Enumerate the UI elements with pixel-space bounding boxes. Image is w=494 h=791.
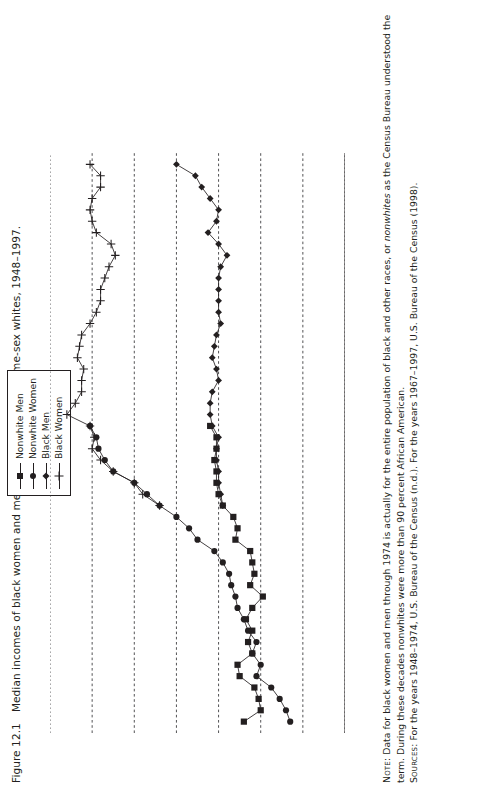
chart-data-point bbox=[251, 684, 257, 690]
chart-data-point bbox=[77, 331, 85, 339]
chart-data-point bbox=[237, 673, 243, 679]
chart-series-nonwhite-women bbox=[87, 423, 293, 725]
note-paragraph: Note: Data for black women and men throu… bbox=[380, 13, 407, 783]
chart-data-point bbox=[215, 309, 222, 316]
chart-data-point bbox=[96, 285, 104, 293]
chart-data-point bbox=[111, 251, 119, 259]
chart-data-point bbox=[253, 639, 259, 645]
chart-data-point bbox=[173, 161, 180, 168]
chart-data-point bbox=[249, 605, 255, 611]
note-text: Data for black women and men through 197… bbox=[381, 15, 406, 783]
chart-data-point bbox=[192, 172, 199, 179]
chart-data-point bbox=[80, 365, 88, 373]
chart-data-point bbox=[258, 707, 264, 713]
legend-label: Nonwhite Women bbox=[27, 378, 38, 459]
sources-label: Sources: bbox=[408, 743, 419, 783]
chart-series-nonwhite-men bbox=[207, 423, 266, 725]
chart-data-point bbox=[194, 537, 200, 543]
chart-data-point bbox=[213, 218, 220, 225]
chart-data-point bbox=[234, 662, 240, 668]
chart-data-point bbox=[86, 206, 94, 214]
figure-caption: Figure 12.1Median incomes of black women… bbox=[10, 226, 22, 783]
chart-data-point bbox=[283, 707, 289, 713]
chart-data-point bbox=[226, 571, 232, 577]
chart-data-point bbox=[207, 411, 214, 418]
chart-data-point bbox=[88, 194, 96, 202]
chart-data-point bbox=[209, 388, 216, 395]
chart-data-point bbox=[232, 537, 238, 543]
chart-data-point bbox=[211, 548, 217, 554]
chart-data-point bbox=[287, 719, 293, 725]
legend-item-nonwhite-women: Nonwhite Women bbox=[26, 378, 39, 489]
chart-data-point bbox=[207, 400, 214, 407]
chart-data-point bbox=[215, 297, 222, 304]
chart-data-point bbox=[224, 252, 231, 259]
note-italic-term: nonwhites bbox=[381, 194, 392, 242]
chart-data-point bbox=[88, 444, 96, 452]
chart-data-point bbox=[258, 662, 264, 668]
chart-data-point bbox=[77, 376, 85, 384]
chart-data-point bbox=[73, 354, 81, 362]
figure-page: Figure 12.1Median incomes of black women… bbox=[0, 0, 494, 791]
chart-data-point bbox=[230, 514, 236, 520]
chart-series-black-women bbox=[63, 160, 164, 510]
chart-data-point bbox=[245, 628, 251, 634]
chart-data-point bbox=[232, 593, 238, 599]
chart-data-point bbox=[198, 184, 205, 191]
chart-data-point bbox=[92, 228, 100, 236]
sources-text: For the years 1948–1974, U.S. Bureau of … bbox=[408, 183, 419, 744]
chart-data-point bbox=[63, 410, 71, 418]
chart-data-point bbox=[209, 354, 216, 361]
chart-data-point bbox=[277, 696, 283, 702]
chart-data-point bbox=[241, 616, 247, 622]
chart-data-point bbox=[107, 240, 115, 248]
chart-data-point bbox=[245, 639, 251, 645]
chart-data-point bbox=[86, 422, 94, 430]
chart-data-point bbox=[215, 377, 222, 384]
chart-data-point bbox=[247, 548, 253, 554]
chart-data-point bbox=[207, 195, 214, 202]
chart-data-point bbox=[256, 696, 262, 702]
chart-data-point bbox=[96, 183, 104, 191]
chart-plot-area: 0.30.40.50.60.70.80.91194819511954195719… bbox=[50, 153, 345, 733]
chart-canvas: 0.30.40.50.60.70.80.91194819511954195719… bbox=[50, 153, 345, 733]
chart-data-point bbox=[215, 206, 222, 213]
chart-data-point bbox=[241, 719, 247, 725]
chart-data-point bbox=[234, 605, 240, 611]
chart-data-point bbox=[105, 263, 113, 271]
chart-data-point bbox=[228, 582, 234, 588]
chart-data-point bbox=[92, 308, 100, 316]
chart-data-point bbox=[253, 673, 259, 679]
chart-data-point bbox=[101, 274, 109, 282]
legend-label: Nonwhite Men bbox=[14, 393, 25, 459]
legend-item-nonwhite-men: Nonwhite Men bbox=[13, 378, 26, 489]
note-label: Note: bbox=[381, 758, 392, 783]
legend-swatch-filled-square-icon bbox=[14, 463, 26, 489]
chart-data-point bbox=[251, 571, 257, 577]
legend-swatch-filled-circle-icon bbox=[27, 463, 39, 489]
chart-data-point bbox=[86, 319, 94, 327]
chart-data-point bbox=[96, 297, 104, 305]
chart-data-point bbox=[88, 217, 96, 225]
chart-data-point bbox=[186, 525, 192, 531]
chart-data-point bbox=[249, 650, 255, 656]
figure-notes: Note: Data for black women and men throu… bbox=[380, 13, 421, 783]
chart-series-black-men bbox=[173, 161, 230, 509]
chart-series-line bbox=[90, 426, 290, 722]
figure-number: Figure 12.1 bbox=[10, 723, 22, 783]
chart-data-point bbox=[215, 286, 222, 293]
chart-data-point bbox=[75, 342, 83, 350]
chart-data-point bbox=[220, 559, 226, 565]
chart-data-point bbox=[247, 582, 253, 588]
chart-data-point bbox=[211, 343, 218, 350]
chart-data-point bbox=[71, 399, 79, 407]
chart-data-point bbox=[139, 490, 147, 498]
chart-data-point bbox=[260, 593, 266, 599]
chart-data-point bbox=[77, 388, 85, 396]
chart-data-point bbox=[215, 275, 222, 282]
chart-data-point bbox=[173, 514, 179, 520]
chart-data-point bbox=[249, 559, 255, 565]
sources-paragraph: Sources: For the years 1948–1974, U.S. B… bbox=[407, 13, 421, 783]
chart-data-point bbox=[234, 525, 240, 531]
chart-data-point bbox=[268, 684, 274, 690]
